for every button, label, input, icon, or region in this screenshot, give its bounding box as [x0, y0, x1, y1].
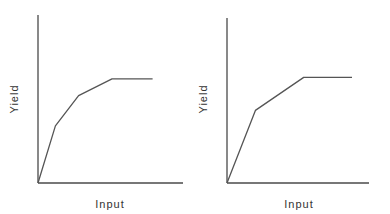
series-line	[38, 79, 153, 183]
series-line	[227, 77, 352, 183]
chart-left: Input Yield	[8, 15, 183, 210]
y-axis-label: Yield	[8, 84, 20, 113]
x-axis-label: Input	[95, 198, 124, 210]
x-axis-label: Input	[284, 198, 313, 210]
figure: Input Yield Input Yield	[0, 0, 390, 214]
chart-right: Input Yield	[197, 18, 369, 210]
y-axis-label: Yield	[197, 84, 209, 113]
